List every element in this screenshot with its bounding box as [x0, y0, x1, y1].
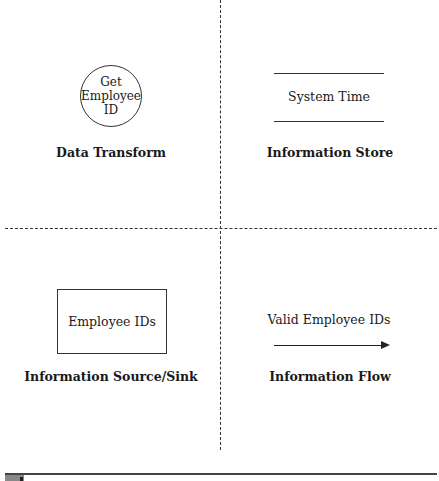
vertical-divider — [220, 0, 221, 450]
data-transform-circle: Get Employee ID — [80, 65, 142, 127]
arrow-right-icon — [381, 341, 390, 349]
bottom-rule — [5, 473, 437, 475]
information-flow-caption: Information Flow — [269, 369, 391, 384]
data-transform-caption: Data Transform — [56, 145, 166, 160]
flow-label: Valid Employee IDs — [267, 312, 390, 327]
flow-arrow-line — [274, 345, 382, 346]
information-store-caption: Information Store — [267, 145, 394, 160]
bottom-tab-mark — [20, 477, 23, 481]
horizontal-divider — [5, 228, 437, 229]
circle-text-line-1: Get — [81, 75, 141, 89]
source-sink-label: Employee IDs — [68, 314, 156, 329]
store-top-line — [274, 73, 384, 74]
circle-text-line-3: ID — [81, 103, 141, 117]
source-sink-rectangle: Employee IDs — [57, 289, 167, 354]
store-bottom-line — [274, 121, 384, 122]
store-label: System Time — [288, 89, 370, 104]
source-sink-caption: Information Source/Sink — [24, 369, 198, 384]
circle-text-line-2: Employee — [81, 89, 141, 103]
circle-text: Get Employee ID — [81, 75, 141, 117]
